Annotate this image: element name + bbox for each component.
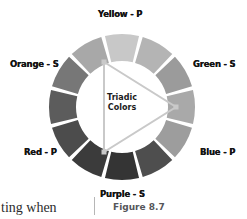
wheel-segment-yellow <box>105 34 139 62</box>
column-divider <box>94 197 95 215</box>
center-title: Triadic Colors <box>82 93 162 113</box>
wheel-label-red: Red - P <box>24 148 57 157</box>
wheel-segment-blue-green <box>167 90 195 124</box>
wheel-label-blue: Blue - P <box>200 148 235 157</box>
figure-8-7: Yellow - P Orange - S Red - P Purple - S… <box>0 0 247 219</box>
triangle-yellow-vertex <box>102 60 107 65</box>
wheel-label-green: Green - S <box>193 60 236 69</box>
figure-caption: Figure 8.7 <box>113 202 165 212</box>
triangle-red-vertex <box>102 150 107 155</box>
center-title-line-1: Triadic <box>82 93 162 103</box>
wheel-label-purple: Purple - S <box>100 190 145 199</box>
wheel-segment-purple <box>105 152 139 180</box>
body-text-fragment: ting when <box>1 200 57 216</box>
wheel-segment-red-orange <box>49 90 77 124</box>
center-title-line-2: Colors <box>82 103 162 113</box>
wheel-label-yellow: Yellow - P <box>98 10 142 19</box>
wheel-label-orange: Orange - S <box>10 60 59 69</box>
triangle-blue-vertex <box>174 105 179 110</box>
